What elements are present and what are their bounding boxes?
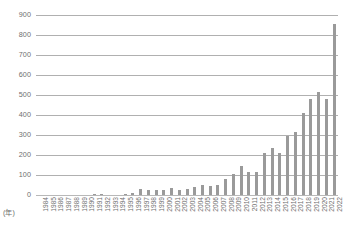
bar — [124, 194, 127, 195]
y-tick-label-0: 0 — [0, 191, 31, 198]
bar — [278, 153, 281, 195]
bar — [162, 190, 165, 195]
x-tick-label-2010: 2010 — [244, 197, 251, 212]
bar — [294, 132, 297, 195]
x-tick-label-2006: 2006 — [213, 197, 220, 212]
y-tick-label-900: 900 — [0, 11, 31, 18]
x-tick-label-2017: 2017 — [298, 197, 305, 212]
y-tick-label-800: 800 — [0, 31, 31, 38]
bar — [224, 179, 227, 195]
bar — [186, 189, 189, 195]
x-tick-label-1996: 1996 — [136, 197, 143, 212]
bar — [131, 193, 134, 195]
x-tick-label-2019: 2019 — [314, 197, 321, 212]
x-tick-label-2002: 2002 — [182, 197, 189, 212]
bar — [286, 136, 289, 195]
x-tick-label-1986: 1986 — [58, 197, 65, 212]
bar — [147, 190, 150, 195]
bar — [100, 194, 103, 195]
x-tick-label-2007: 2007 — [221, 197, 228, 212]
y-tick-label-300: 300 — [0, 131, 31, 138]
x-tick-label-1992: 1992 — [105, 197, 112, 212]
bar — [309, 99, 312, 195]
bar — [178, 190, 181, 195]
y-tick-label-700: 700 — [0, 51, 31, 58]
x-tick-label-2014: 2014 — [275, 197, 282, 212]
bar — [209, 186, 212, 195]
y-tick-label-600: 600 — [0, 71, 31, 78]
y-tick-label-400: 400 — [0, 111, 31, 118]
x-tick-label-1995: 1995 — [128, 197, 135, 212]
bar — [263, 153, 266, 195]
bar — [216, 185, 219, 195]
bar — [93, 194, 96, 195]
bars-container — [36, 15, 338, 195]
y-tick-label-500: 500 — [0, 91, 31, 98]
x-tick-label-2022: 2022 — [337, 197, 343, 212]
x-axis-unit-label: (年) — [3, 209, 15, 216]
x-tick-label-1984: 1984 — [43, 197, 50, 212]
bar — [232, 174, 235, 195]
bar-chart: 9008007006005004003002001000 19841985198… — [0, 0, 343, 225]
bar — [155, 190, 158, 195]
bar — [255, 172, 258, 195]
bar — [302, 113, 305, 195]
x-tick-label-1994: 1994 — [120, 197, 127, 212]
x-tick-label-2011: 2011 — [252, 197, 259, 211]
x-tick-label-1991: 1991 — [97, 197, 104, 212]
bar — [317, 92, 320, 195]
x-tick-label-2018: 2018 — [306, 197, 313, 212]
bar — [240, 166, 243, 195]
x-tick-label-1998: 1998 — [151, 197, 158, 212]
x-tick-label-2021: 2021 — [329, 197, 336, 212]
bar — [333, 24, 336, 195]
x-tick-label-2000: 2000 — [167, 197, 174, 212]
x-tick-label-1987: 1987 — [66, 197, 73, 212]
bar — [271, 148, 274, 195]
bar — [170, 188, 173, 195]
x-tick-label-1990: 1990 — [89, 197, 96, 212]
x-tick-label-2003: 2003 — [190, 197, 197, 212]
bar — [247, 172, 250, 195]
x-tick-label-1988: 1988 — [74, 197, 81, 212]
bar — [325, 99, 328, 195]
x-tick-label-2015: 2015 — [283, 197, 290, 212]
bar — [201, 185, 204, 195]
bar — [139, 189, 142, 195]
x-tick-label-1999: 1999 — [159, 197, 166, 212]
bar — [193, 187, 196, 195]
y-tick-label-200: 200 — [0, 151, 31, 158]
y-tick-label-100: 100 — [0, 171, 31, 178]
x-axis-labels: 1984198519861987198819891990199119921993… — [36, 197, 338, 225]
